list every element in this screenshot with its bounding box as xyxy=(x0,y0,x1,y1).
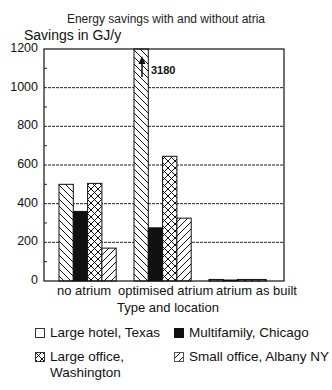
legend-item-large-office: Large office, Washington xyxy=(35,349,124,381)
plot-area xyxy=(0,0,332,300)
legend-item-multifamily: Multifamily, Chicago xyxy=(174,325,309,340)
legend-label: Large office, Washington xyxy=(50,349,124,381)
cross-hatch-square-icon xyxy=(35,352,45,362)
diagonal-hatch-square-icon xyxy=(174,352,184,362)
x-category-no-atrium: no atrium xyxy=(57,283,111,298)
legend-label: Small office, Albany NY xyxy=(189,349,329,364)
bar xyxy=(88,183,102,281)
x-category-atrium-as-built: atrium as built xyxy=(216,283,297,298)
bar xyxy=(163,156,177,281)
legend-item-large-hotel: Large hotel, Texas xyxy=(35,325,160,340)
bar xyxy=(102,248,116,281)
legend-label: Multifamily, Chicago xyxy=(189,325,309,340)
bar xyxy=(148,228,162,281)
bar xyxy=(134,49,148,281)
bar xyxy=(59,184,73,281)
bar xyxy=(177,218,191,281)
legend-label: Large hotel, Texas xyxy=(50,325,160,340)
filled-square-icon xyxy=(174,328,184,338)
empty-square-icon xyxy=(35,328,45,338)
legend-item-small-office: Small office, Albany NY xyxy=(174,349,329,364)
off-scale-value-label: 3180 xyxy=(151,64,175,76)
bar xyxy=(73,211,87,281)
x-axis-label: Type and location xyxy=(0,300,332,315)
x-category-optimised-atrium: optimised atrium xyxy=(118,283,213,298)
